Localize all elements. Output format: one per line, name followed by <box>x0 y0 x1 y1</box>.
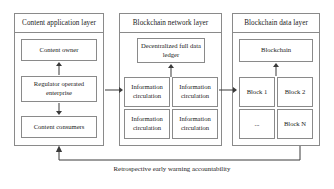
panel-header-blockchain-network-layer: Blockchain network layer <box>120 14 221 33</box>
arrow-application-to-network <box>105 85 123 94</box>
arrow-blocks-to-blockchain <box>272 63 280 76</box>
node-decentralized-full-data-ledger: Decentralized full data ledger <box>137 38 205 63</box>
node-information-circulation-1: Information circulation <box>124 77 170 107</box>
node-block-2: Block 2 <box>277 77 313 107</box>
node-content-owner: Content owner <box>21 39 97 61</box>
arrow-circulation-to-ledger <box>167 64 175 77</box>
arrow-shaft <box>219 89 234 90</box>
architecture-diagram: Content application layer Content owner … <box>0 0 334 189</box>
node-information-circulation-2: Information circulation <box>172 77 218 107</box>
arrow-shaft <box>276 67 277 76</box>
panel-header-content-application-layer: Content application layer <box>15 14 103 33</box>
panel-header-blockchain-data-layer: Blockchain data layer <box>233 14 319 33</box>
arrow-network-to-data <box>219 85 237 94</box>
node-blockchain: Blockchain <box>239 39 313 62</box>
node-block-n: Block N <box>277 109 313 139</box>
node-regulator-operated-enterprise: Regulator operated enterprise <box>21 76 97 102</box>
arrow-shaft <box>171 68 172 77</box>
arrowhead-right-icon <box>233 87 237 93</box>
node-block-ellipsis: ... <box>239 109 275 139</box>
arrow-shaft <box>105 89 120 90</box>
arrowhead-right-icon <box>119 87 123 93</box>
node-information-circulation-3: Information circulation <box>124 109 170 139</box>
arrow-regulator-to-content-consumers <box>55 103 63 115</box>
node-information-circulation-4: Information circulation <box>172 109 218 139</box>
node-content-consumers: Content consumers <box>21 116 97 138</box>
arrow-shaft <box>59 66 60 75</box>
arrow-regulator-to-content-owner <box>55 62 63 75</box>
feedback-caption: Retrospective early warning accountabili… <box>112 164 232 174</box>
arrowhead-down-icon <box>56 111 62 115</box>
node-block-1: Block 1 <box>239 77 275 107</box>
arrow-shaft <box>59 103 60 111</box>
